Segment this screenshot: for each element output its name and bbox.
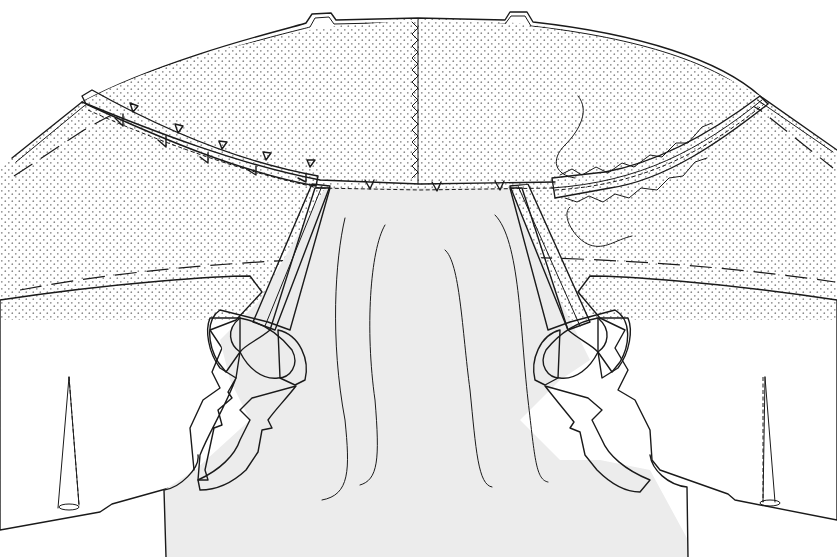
illustration-canvas — [0, 0, 837, 557]
collar-diagram — [0, 0, 837, 557]
right-dart — [760, 377, 780, 506]
left-dart — [58, 377, 79, 510]
